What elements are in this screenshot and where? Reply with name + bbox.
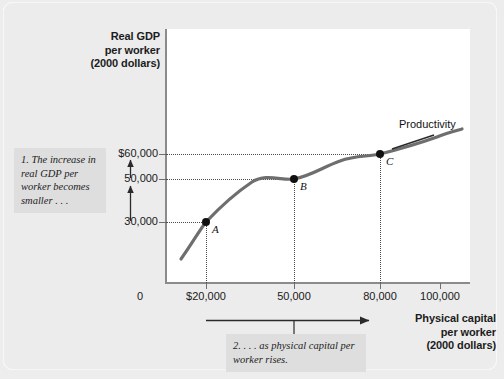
data-point-label-a: A — [212, 223, 219, 235]
y-tick-mark-60000 — [159, 154, 166, 155]
guide-line-horizontal-c — [166, 154, 382, 155]
plot-area — [166, 29, 470, 283]
x-tick-mark-20000 — [206, 283, 207, 289]
guide-line-vertical-c — [380, 154, 381, 283]
x-tick-mark-80000 — [380, 283, 381, 289]
data-point-label-c: C — [386, 155, 393, 167]
guide-line-vertical-b — [294, 179, 295, 283]
x-tick-label-20000: $20,000 — [166, 290, 246, 302]
x-axis-title-line-1: Physical capital — [368, 312, 496, 326]
x-tick-label-0: 0 — [125, 290, 155, 302]
y-axis-title-line-2: per worker — [46, 44, 160, 58]
y-axis-title-line-1: Real GDP — [46, 30, 160, 44]
data-point-c — [376, 150, 384, 158]
y-tick-mark-50000 — [159, 179, 166, 180]
y-axis-title: Real GDP per worker (2000 dollars) — [46, 30, 160, 71]
y-tick-mark-30000 — [159, 222, 166, 223]
data-point-b — [290, 175, 298, 183]
productivity-curve-label: Productivity — [399, 118, 456, 130]
x-axis-title: Physical capital per worker (2000 dollar… — [368, 312, 496, 353]
annotation-note-2: 2. . . . as physical capital per worker … — [226, 334, 366, 372]
x-tick-label-50000: 50,000 — [254, 290, 334, 302]
guide-line-vertical-a — [206, 222, 207, 283]
x-tick-label-100000: 100,000 — [400, 290, 480, 302]
annotation-note-1: 1. The increase in real GDP per worker b… — [14, 148, 106, 213]
y-axis-line — [165, 29, 167, 284]
data-point-a — [202, 218, 210, 226]
x-axis-title-line-2: per worker — [368, 326, 496, 340]
y-axis-title-line-3: (2000 dollars) — [46, 57, 160, 71]
data-point-label-b: B — [300, 180, 307, 192]
x-axis-line — [165, 282, 470, 284]
guide-line-horizontal-b — [166, 179, 296, 180]
chart-figure: Real GDP per worker (2000 dollars) Physi… — [0, 0, 504, 379]
x-tick-mark-100000 — [440, 283, 441, 289]
y-tick-label-30000: 30,000 — [78, 215, 158, 227]
x-axis-title-line-3: (2000 dollars) — [368, 339, 496, 353]
x-tick-mark-50000 — [294, 283, 295, 289]
